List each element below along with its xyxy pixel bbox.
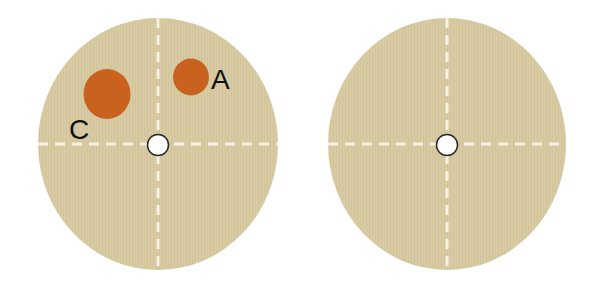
spot-c — [84, 69, 131, 119]
spot-a — [173, 59, 209, 96]
right-disc-center-hole — [437, 135, 458, 156]
figure: C A — [0, 0, 596, 296]
right-disc — [328, 18, 566, 270]
left-disc-center-hole — [148, 135, 169, 156]
spot-c-label: C — [69, 114, 89, 145]
left-disc: C A — [38, 18, 278, 270]
discs-diagram: C A — [0, 0, 596, 296]
spot-a-label: A — [211, 64, 230, 95]
